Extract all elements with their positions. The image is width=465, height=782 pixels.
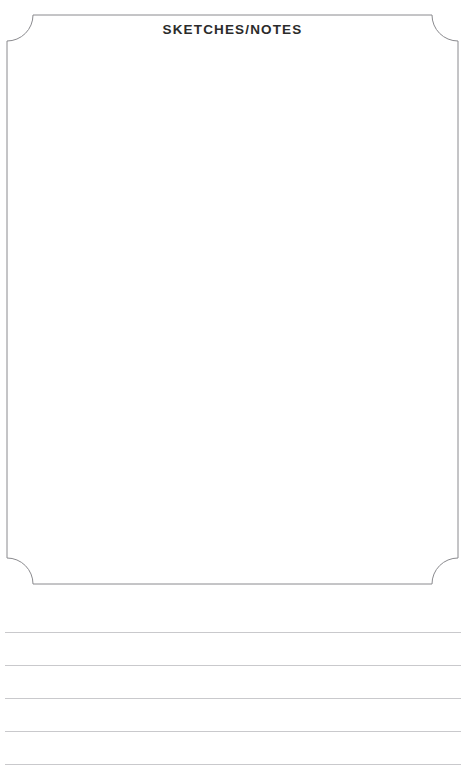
ruled-line-row[interactable] (0, 600, 465, 633)
ruled-line-row[interactable] (0, 732, 465, 765)
ruled-line-row[interactable] (0, 633, 465, 666)
page-title: SKETCHES/NOTES (0, 22, 465, 38)
ruled-line-row[interactable] (0, 765, 465, 782)
ruled-line-row[interactable] (0, 666, 465, 699)
ruled-line-row[interactable] (0, 699, 465, 732)
sketch-notes-input-area[interactable] (9, 46, 456, 582)
ruled-lines-area (0, 600, 465, 782)
planner-page: SKETCHES/NOTES (0, 0, 465, 782)
